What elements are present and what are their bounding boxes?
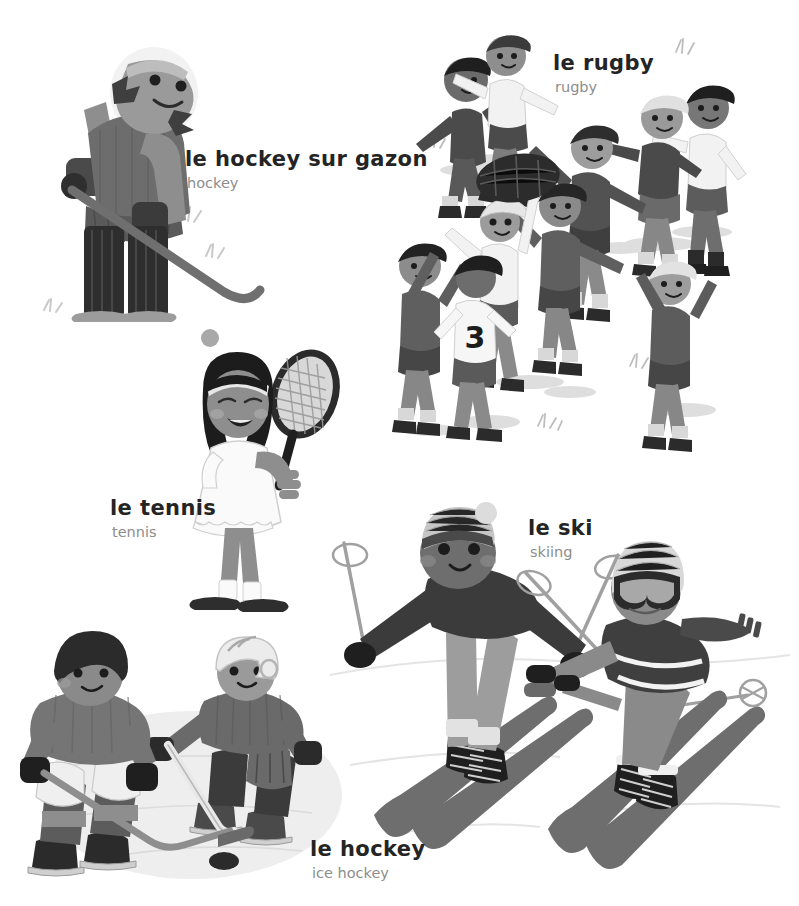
label-en-rugby: rugby [555, 79, 654, 96]
sock-left [219, 580, 237, 600]
hair-texture-skier-2 [616, 542, 680, 571]
label-fr-hockey: le hockey [310, 838, 426, 861]
cuff-skier-2 [524, 683, 556, 697]
illustration-page: le hockey sur gazon hockey [0, 0, 799, 906]
glove-skier-2 [526, 665, 556, 683]
leg-pad-left [84, 226, 124, 318]
label-fr-ski: le ski [528, 517, 593, 540]
glove2-skier-2 [554, 675, 580, 691]
label-en-ski: skiing [530, 544, 593, 561]
label-rugby: le rugby rugby [553, 52, 654, 96]
cheek-left-skier-1 [420, 555, 436, 567]
scene-ice-hockey [22, 645, 342, 895]
label-en-tennis: tennis [112, 524, 216, 541]
hockey-puck [209, 852, 239, 870]
eye-right [176, 81, 187, 92]
hockey-ball [201, 329, 219, 347]
eye-left-skier-1 [438, 543, 450, 555]
label-fr-rugby: le rugby [553, 52, 654, 75]
label-hockey: le hockey ice hockey [310, 838, 426, 882]
label-fr-tennis: le tennis [110, 497, 216, 520]
rugby-illustration: 3 [390, 36, 799, 476]
label-en-hockey: ice hockey [312, 865, 426, 882]
jersey-number: 3 [465, 320, 486, 355]
leg-right [239, 528, 259, 584]
ice-hockey-illustration [22, 645, 342, 895]
hand [275, 470, 301, 499]
shoe-right [119, 311, 176, 322]
eye-right-skier-1 [468, 543, 480, 555]
cheek-right-skier-1 [480, 555, 496, 567]
cheek-left [210, 409, 224, 419]
sock-right-skier-1 [468, 727, 500, 745]
label-ski: le ski skiing [528, 517, 593, 561]
cheek-right [254, 409, 268, 419]
hat-bobble [475, 502, 497, 524]
eye-left [150, 75, 161, 86]
scene-rugby: 3 [390, 36, 799, 476]
glove-left-skier-1 [344, 642, 376, 668]
label-tennis: le tennis tennis [110, 497, 216, 541]
rugby-player-10 [636, 261, 717, 452]
sock-right [243, 582, 261, 602]
